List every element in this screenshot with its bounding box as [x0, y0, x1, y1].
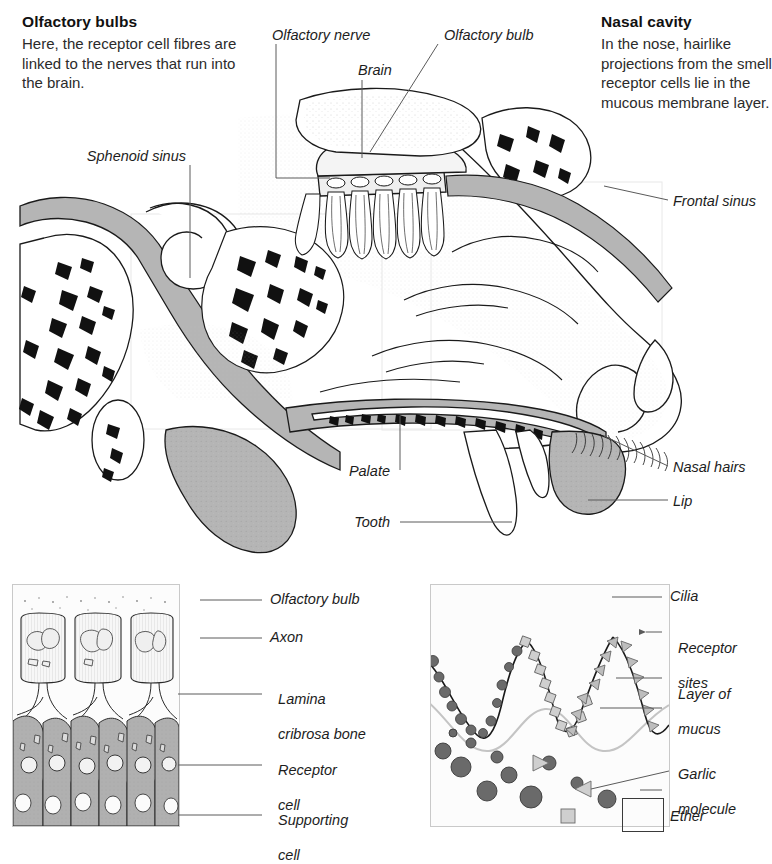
- panel-left-label-supporting-cell: Supporting cell: [270, 794, 348, 864]
- receptor-cell-line1: Receptor: [278, 762, 337, 778]
- panel-right-label-ether: Ether: [670, 808, 705, 826]
- receptor-sites-line1: Receptor: [678, 640, 737, 656]
- lamina-line2: cribrosa bone: [278, 726, 366, 742]
- panel-right-label-layer-of-mucus: Layer of mucus: [670, 668, 730, 739]
- garlic-line1: Garlic: [678, 766, 716, 782]
- panel-left-label-axon: Axon: [270, 629, 303, 647]
- layer-mucus-line1: Layer of: [678, 686, 730, 702]
- ether-legend-box: [622, 798, 664, 832]
- panel-left-label-olfactory-bulb: Olfactory bulb: [270, 591, 359, 609]
- panel-right-label-cilia: Cilia: [670, 588, 698, 606]
- supporting-cell-line2: cell: [278, 847, 300, 863]
- panel-left-label-lamina-cribrosa-bone: Lamina cribrosa bone: [270, 673, 366, 744]
- lamina-line1: Lamina: [278, 691, 326, 707]
- supporting-cell-line1: Supporting: [278, 812, 348, 828]
- layer-mucus-line2: mucus: [678, 721, 721, 737]
